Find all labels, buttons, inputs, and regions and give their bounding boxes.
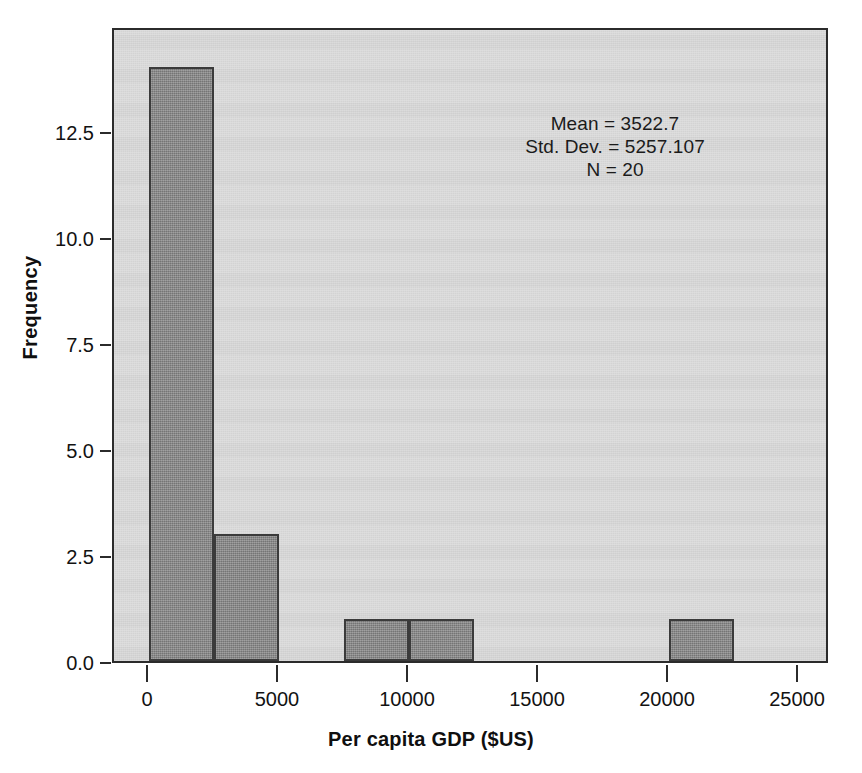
y-axis-tick-label: 12.5 bbox=[22, 122, 94, 145]
histogram-bar bbox=[149, 67, 214, 661]
x-axis-tick-label: 0 bbox=[82, 688, 212, 711]
x-axis-tick-mark bbox=[406, 665, 408, 682]
x-axis-tick-label: 15000 bbox=[472, 688, 602, 711]
x-axis-tick-label: 10000 bbox=[342, 688, 472, 711]
x-axis-tick-mark bbox=[536, 665, 538, 682]
x-axis-tick-label: 25000 bbox=[732, 688, 862, 711]
y-axis-tick-label: 2.5 bbox=[22, 546, 94, 569]
y-axis-tick-mark bbox=[100, 662, 111, 664]
histogram-bar bbox=[214, 534, 279, 661]
x-axis-tick-mark bbox=[796, 665, 798, 682]
x-axis-tick-label: 5000 bbox=[212, 688, 342, 711]
y-axis-tick-mark bbox=[100, 132, 111, 134]
histogram-bar bbox=[344, 619, 409, 661]
x-axis-tick-mark bbox=[146, 665, 148, 682]
annotation-mean: Mean = 3522.7 bbox=[505, 112, 725, 135]
annotation-n: N = 20 bbox=[505, 158, 725, 181]
y-axis-tick-label: 0.0 bbox=[22, 652, 94, 675]
x-axis-tick-mark bbox=[666, 665, 668, 682]
y-axis-title: Frequency bbox=[19, 218, 42, 398]
y-axis-tick-mark bbox=[100, 344, 111, 346]
y-axis-tick-mark bbox=[100, 450, 111, 452]
y-axis-tick-label: 5.0 bbox=[22, 440, 94, 463]
y-axis-tick-mark bbox=[100, 556, 111, 558]
x-axis-title: Per capita GDP ($US) bbox=[0, 728, 862, 751]
histogram-figure: Mean = 3522.7 Std. Dev. = 5257.107 N = 2… bbox=[0, 0, 862, 773]
histogram-bar bbox=[409, 619, 474, 661]
histogram-bar bbox=[669, 619, 734, 661]
x-axis-tick-label: 20000 bbox=[602, 688, 732, 711]
y-axis-tick-mark bbox=[100, 238, 111, 240]
annotation-std-dev: Std. Dev. = 5257.107 bbox=[505, 135, 725, 158]
stats-annotation: Mean = 3522.7 Std. Dev. = 5257.107 N = 2… bbox=[505, 112, 725, 181]
x-axis-tick-mark bbox=[276, 665, 278, 682]
